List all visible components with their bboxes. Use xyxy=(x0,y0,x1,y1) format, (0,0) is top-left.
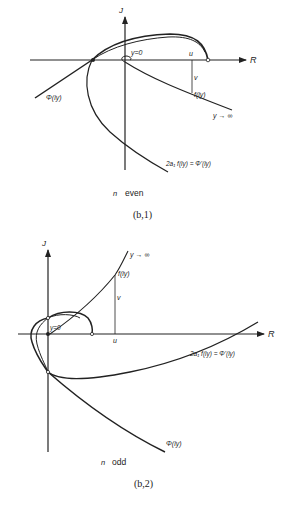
phi-curve xyxy=(48,372,165,452)
label-u: u xyxy=(113,337,117,344)
figure-b2: R J y=0 u v f(iy) y → ∞ 2a₁ f(iy) = Φ'(i… xyxy=(18,239,275,490)
caption-b2: (b,2) xyxy=(134,478,153,490)
real-axis-label: R xyxy=(268,329,275,339)
label-y-inf: y → ∞ xyxy=(212,112,232,120)
label-phi: Φ(iy) xyxy=(166,440,182,448)
label-derivative: 2a₁ f(iy) = Φ'(iy) xyxy=(189,350,235,358)
label-v: v xyxy=(194,74,198,81)
imag-axis-label: J xyxy=(118,6,124,15)
label-f: f(iy) xyxy=(118,270,130,278)
f-curve xyxy=(50,251,128,334)
label-phi: Φ(iy) xyxy=(46,94,62,102)
case-parity: odd xyxy=(112,457,126,467)
label-y0: y=0 xyxy=(130,49,143,57)
label-v: v xyxy=(117,294,121,301)
intersection-point xyxy=(91,58,95,62)
label-u: u xyxy=(189,50,193,57)
case-n: n xyxy=(101,458,105,467)
diagram-canvas: R J y=0 u v f(iy) y → ∞ Φ(iy) 2a₁ f(iy) … xyxy=(0,0,286,506)
real-axis-label: R xyxy=(250,55,257,65)
label-derivative: 2a₁ f(iy) = Φ'(iy) xyxy=(165,160,211,168)
label-y0: y=0 xyxy=(49,324,61,332)
f-curve xyxy=(125,62,232,110)
origin-loop xyxy=(122,56,131,62)
label-y-inf: y → ∞ xyxy=(129,251,149,259)
endpoint-hollow xyxy=(90,332,93,335)
case-parity: even xyxy=(125,188,144,198)
bottom-point xyxy=(46,370,49,373)
derivative-curve xyxy=(87,60,168,172)
imag-axis-label: J xyxy=(41,239,47,248)
caption-b1: (b,1) xyxy=(133,209,152,221)
phi-curve xyxy=(35,60,92,98)
case-n: n xyxy=(113,189,117,198)
endpoint-hollow xyxy=(206,58,210,62)
label-f: f(iy) xyxy=(194,91,206,99)
origin-point xyxy=(46,332,50,336)
top-point xyxy=(46,316,49,319)
figure-b1: R J y=0 u v f(iy) y → ∞ Φ(iy) 2a₁ f(iy) … xyxy=(30,6,257,221)
